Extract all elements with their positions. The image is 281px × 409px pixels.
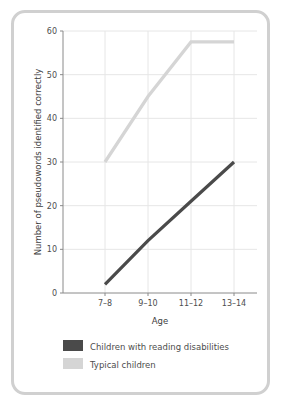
y-axis-title: Number of pseudowords identified correct… bbox=[33, 69, 43, 256]
series-line-typical-children bbox=[105, 42, 234, 162]
y-tick-label: 60 bbox=[47, 27, 57, 36]
x-tick-label: 13–14 bbox=[222, 299, 246, 308]
y-tick-label: 40 bbox=[47, 114, 57, 123]
y-tick-label: 50 bbox=[47, 71, 57, 80]
y-tick-label: 20 bbox=[47, 202, 57, 211]
legend-label: Typical children bbox=[89, 360, 156, 370]
x-tick-label: 11–12 bbox=[179, 299, 203, 308]
legend-swatch bbox=[63, 340, 83, 351]
legend-swatch bbox=[63, 358, 83, 369]
series-line-children-with-reading-disabilities bbox=[105, 162, 234, 284]
legend: Children with reading disabilitiesTypica… bbox=[63, 340, 230, 370]
x-axis-title: Age bbox=[152, 316, 168, 326]
y-tick-label: 0 bbox=[52, 289, 57, 298]
line-chart: 0102030405060 7–89–1011–1213–14 Number o… bbox=[0, 0, 281, 409]
y-tick-label: 30 bbox=[47, 158, 57, 167]
x-tick-label: 7–8 bbox=[98, 299, 112, 308]
x-axis-ticks: 7–89–1011–1213–14 bbox=[98, 293, 246, 308]
y-axis-ticks: 0102030405060 bbox=[47, 27, 63, 298]
gridlines bbox=[63, 31, 257, 293]
legend-label: Children with reading disabilities bbox=[90, 342, 230, 352]
chart-svg: 0102030405060 7–89–1011–1213–14 Number o… bbox=[0, 0, 281, 409]
data-series-group bbox=[105, 42, 234, 284]
y-tick-label: 10 bbox=[47, 245, 57, 254]
x-tick-label: 9–10 bbox=[138, 299, 157, 308]
